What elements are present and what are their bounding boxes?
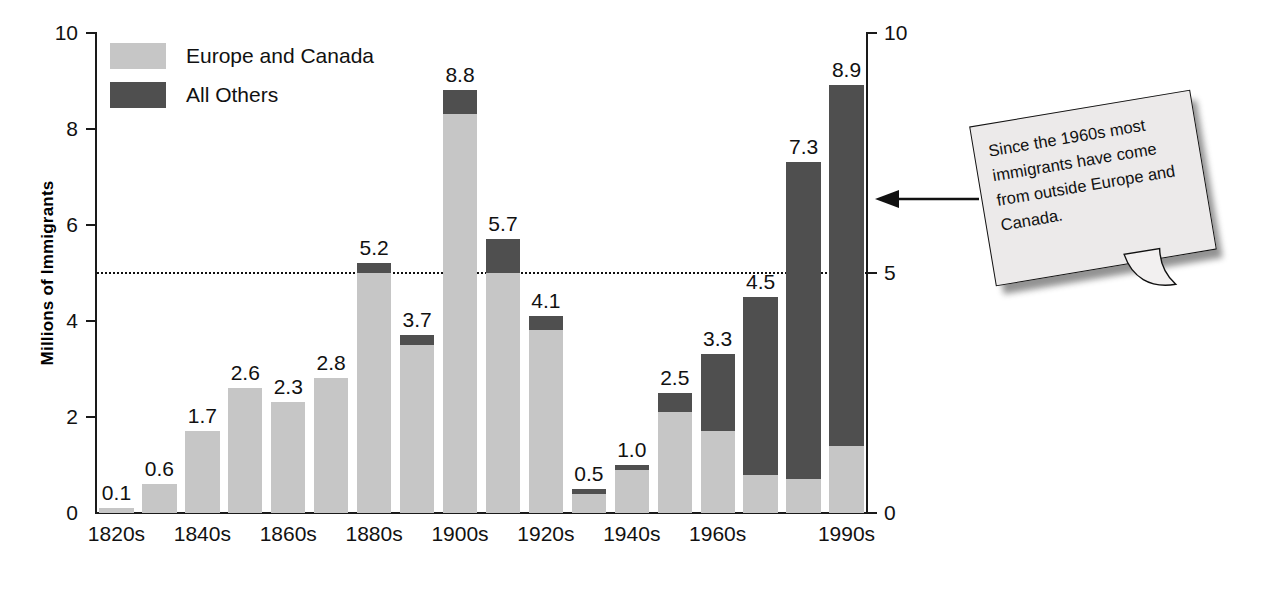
callout-arrow-icon [875, 188, 980, 210]
bar-value-label-1960s: 3.3 [703, 328, 732, 349]
bar-segment-all-others-1890s [400, 335, 434, 345]
bar-segment-all-others-1880s [357, 263, 391, 273]
bar-1830s [142, 484, 176, 513]
bar-value-label-1870s: 2.8 [317, 352, 346, 373]
bar-value-label-1970s: 4.5 [746, 271, 775, 292]
bar-segment-europe-canada-1850s [228, 388, 262, 513]
bar-segment-europe-canada-1860s [271, 402, 305, 513]
bar-segment-europe-canada-1940s [615, 470, 649, 513]
y-tick-left-8 [86, 128, 95, 130]
bar-value-label-1890s: 3.7 [402, 309, 431, 330]
x-axis-label-1960s: 1960s [658, 522, 778, 546]
immigration-stacked-bar-chart: Millions of Immigrants 10 8 6 4 2 0 10 5… [0, 0, 1262, 591]
bar-segment-europe-canada-1910s [486, 273, 520, 514]
y-tick-right-0 [868, 512, 877, 514]
x-axis-label-1990s: 1990s [787, 522, 907, 546]
legend: Europe and Canada All Others [110, 40, 374, 118]
bar-value-label-1910s: 5.7 [488, 213, 517, 234]
bar-value-label-1930s: 0.5 [574, 463, 603, 484]
callout-curl-icon [1122, 242, 1194, 296]
bar-1940s [615, 465, 649, 513]
y-tick-left-6 [86, 224, 95, 226]
legend-label-all-others: All Others [186, 83, 278, 107]
callout-note: Since the 1960s most immigrants have com… [975, 95, 1225, 310]
y-label-left-6: 6 [38, 213, 78, 237]
y-label-right-10: 10 [884, 21, 924, 45]
bar-1950s [658, 393, 692, 513]
bar-1840s [185, 431, 219, 513]
bar-1990s [829, 85, 863, 513]
bar-value-label-1950s: 2.5 [660, 367, 689, 388]
y-tick-left-10 [86, 32, 95, 34]
y-label-left-8: 8 [38, 117, 78, 141]
bar-1960s [701, 354, 735, 513]
bar-1970s [743, 297, 777, 513]
bar-1860s [271, 402, 305, 513]
bar-segment-all-others-1950s [658, 393, 692, 412]
bar-1880s [357, 263, 391, 513]
bar-segment-europe-canada-1900s [443, 114, 477, 513]
bar-segment-all-others-1920s [529, 316, 563, 330]
bar-segment-all-others-1930s [572, 489, 606, 494]
bar-segment-europe-canada-1920s [529, 330, 563, 513]
bar-segment-europe-canada-1820s [99, 508, 133, 513]
legend-swatch-all-others [110, 82, 166, 108]
bar-1850s [228, 388, 262, 513]
bar-value-label-1900s: 8.8 [445, 64, 474, 85]
y-tick-left-4 [86, 320, 95, 322]
bar-segment-europe-canada-1970s [743, 475, 777, 513]
y-tick-right-5 [868, 272, 877, 274]
bar-value-label-1840s: 1.7 [188, 405, 217, 426]
bar-segment-all-others-1960s [701, 354, 735, 431]
bar-1890s [400, 335, 434, 513]
bar-segment-all-others-1900s [443, 90, 477, 114]
bar-1980s [786, 162, 820, 513]
legend-label-europe-canada: Europe and Canada [186, 44, 374, 68]
bar-1820s [99, 508, 133, 513]
y-label-left-10: 10 [38, 21, 78, 45]
bar-value-label-1980s: 7.3 [789, 136, 818, 157]
y-tick-right-10 [868, 32, 877, 34]
bar-1910s [486, 239, 520, 513]
bar-value-label-1920s: 4.1 [531, 290, 560, 311]
bar-segment-europe-canada-1960s [701, 431, 735, 513]
y-axis-title: Millions of Immigrants [38, 153, 58, 393]
bar-value-label-1880s: 5.2 [360, 237, 389, 258]
bar-1900s [443, 90, 477, 513]
bar-segment-europe-canada-1950s [658, 412, 692, 513]
bar-value-label-1820s: 0.1 [102, 482, 131, 503]
bar-1870s [314, 378, 348, 513]
callout-text: Since the 1960s most immigrants have com… [986, 107, 1196, 238]
bar-segment-europe-canada-1890s [400, 345, 434, 513]
bar-value-label-1940s: 1.0 [617, 439, 646, 460]
bar-segment-europe-canada-1830s [142, 484, 176, 513]
bar-segment-all-others-1980s [786, 162, 820, 479]
bar-segment-all-others-1940s [615, 465, 649, 470]
y-tick-left-2 [86, 416, 95, 418]
legend-item-all-others: All Others [110, 79, 374, 111]
bar-segment-all-others-1990s [829, 85, 863, 446]
bar-value-label-1830s: 0.6 [145, 458, 174, 479]
legend-swatch-europe-canada [110, 43, 166, 69]
bar-value-label-1860s: 2.3 [274, 376, 303, 397]
bar-value-label-1990s: 8.9 [832, 59, 861, 80]
bar-segment-europe-canada-1980s [786, 479, 820, 513]
bar-segment-all-others-1970s [743, 297, 777, 475]
bar-segment-europe-canada-1840s [185, 431, 219, 513]
y-label-left-2: 2 [38, 405, 78, 429]
legend-item-europe-canada: Europe and Canada [110, 40, 374, 72]
bar-segment-europe-canada-1990s [829, 446, 863, 513]
bar-segment-all-others-1910s [486, 239, 520, 273]
bar-segment-europe-canada-1930s [572, 494, 606, 513]
bar-1930s [572, 489, 606, 513]
bar-segment-europe-canada-1870s [314, 378, 348, 513]
bar-value-label-1850s: 2.6 [231, 362, 260, 383]
bar-segment-europe-canada-1880s [357, 273, 391, 514]
y-label-right-5: 5 [884, 261, 924, 285]
y-label-left-4: 4 [38, 309, 78, 333]
bar-1920s [529, 316, 563, 513]
